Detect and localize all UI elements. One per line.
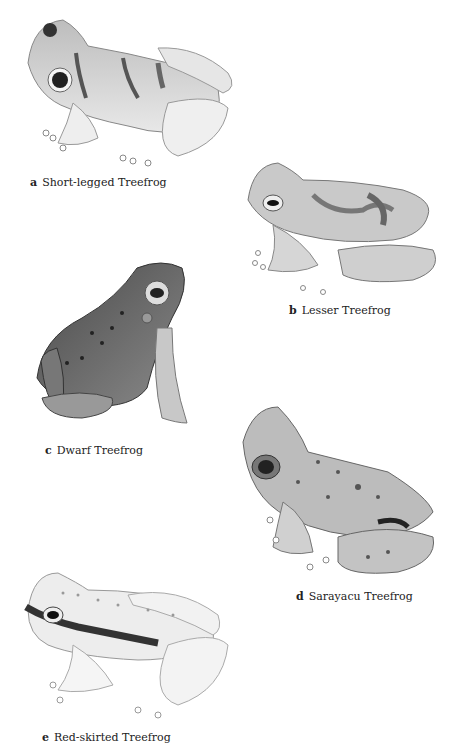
caption-letter: c — [45, 444, 52, 457]
caption-letter: d — [296, 590, 304, 603]
caption-name: Dwarf Treefrog — [57, 444, 143, 457]
caption-letter: a — [30, 176, 37, 189]
caption-letter: e — [42, 731, 49, 744]
caption-name: Short-legged Treefrog — [42, 176, 166, 189]
frog-illustration-red-skirted — [18, 565, 238, 725]
frog-illustration-short-legged — [18, 8, 243, 168]
caption-c: cDwarf Treefrog — [45, 444, 143, 457]
caption-name: Sarayacu Treefrog — [309, 590, 413, 603]
caption-name: Lesser Treefrog — [302, 304, 391, 317]
caption-a: aShort-legged Treefrog — [30, 176, 167, 189]
caption-b: bLesser Treefrog — [289, 304, 391, 317]
caption-letter: b — [289, 304, 297, 317]
caption-name: Red-skirted Treefrog — [54, 731, 171, 744]
frog-illustration-sarayacu — [228, 402, 443, 582]
caption-e: eRed-skirted Treefrog — [42, 731, 171, 744]
caption-d: dSarayacu Treefrog — [296, 590, 413, 603]
frog-illustration-lesser — [243, 155, 443, 295]
frog-illustration-dwarf — [22, 258, 207, 436]
